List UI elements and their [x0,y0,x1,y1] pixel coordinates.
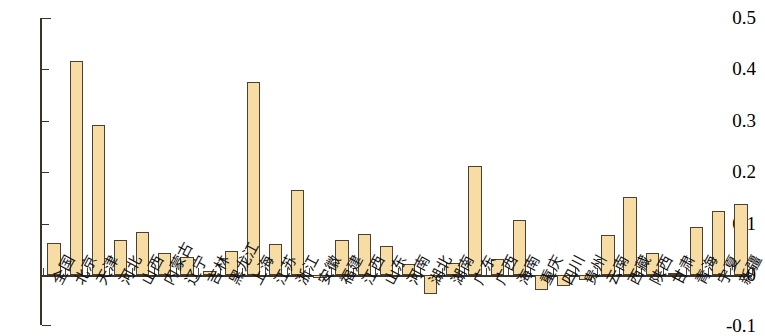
bar [92,125,105,275]
y-axis-tick-label: 0.5 [721,8,756,27]
x-axis-category-label: 四川 [560,254,587,288]
y-axis-end-cap [42,325,51,326]
y-axis-tick-mark [42,224,49,225]
x-axis-category-label: 湖南 [449,254,476,288]
y-axis-line [40,18,42,325]
y-axis-tick-label: 0.2 [721,162,756,181]
y-axis-tick-label: 0.3 [721,111,756,130]
bar [70,61,83,275]
y-axis-tick-label: -0.1 [721,316,756,335]
y-axis-tick-mark [42,69,49,70]
y-axis-tick-mark [42,121,49,122]
x-axis-tick-mark [43,268,44,275]
y-axis-end-cap [42,18,51,19]
x-axis-category-label: 湖北 [427,254,454,288]
x-axis-category-label: 贵州 [582,254,609,288]
y-axis-tick-label: 0.4 [721,59,756,78]
y-axis-tick-mark [42,172,49,173]
x-axis-category-label: 安徽 [316,254,343,288]
